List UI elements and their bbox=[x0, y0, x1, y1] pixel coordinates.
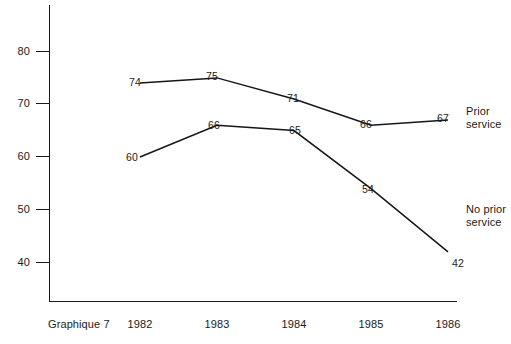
legend-label-no-prior-service-line2: service bbox=[466, 216, 502, 228]
value-label-prior-service-1984: 71 bbox=[281, 92, 305, 104]
y-axis-label-40: 40 bbox=[4, 256, 30, 268]
value-label-prior-service-1985: 66 bbox=[354, 118, 378, 130]
legend-label-prior-service: Prior service bbox=[466, 105, 511, 131]
value-label-prior-service-1986: 67 bbox=[431, 112, 455, 124]
x-axis-label-1985: 1985 bbox=[349, 318, 393, 330]
value-label-no-prior-service-1984: 65 bbox=[283, 124, 307, 136]
series-line-no-prior-service bbox=[140, 125, 448, 252]
value-label-prior-service-1982: 74 bbox=[123, 76, 147, 88]
legend-label-prior-service-line1: Prior bbox=[466, 105, 490, 117]
y-axis-label-80: 80 bbox=[4, 45, 30, 57]
x-axis-label-1984: 1984 bbox=[272, 318, 316, 330]
x-axis-label-1983: 1983 bbox=[195, 318, 239, 330]
legend-label-prior-service-line2: service bbox=[466, 118, 502, 130]
value-label-no-prior-service-1983: 66 bbox=[202, 119, 226, 131]
legend-label-no-prior-service-line1: No prior bbox=[466, 203, 506, 215]
y-axis-label-50: 50 bbox=[4, 203, 30, 215]
y-axis-label-60: 60 bbox=[4, 150, 30, 162]
value-label-prior-service-1983: 75 bbox=[200, 70, 224, 82]
y-axis-label-70: 70 bbox=[4, 97, 30, 109]
chart-caption: Graphique 7 bbox=[48, 318, 110, 330]
value-label-no-prior-service-1986: 42 bbox=[446, 257, 470, 269]
x-axis-label-1982: 1982 bbox=[118, 318, 162, 330]
chart-figure: 80 70 60 50 40 1982 1983 1984 1985 1986 … bbox=[0, 0, 511, 344]
chart-plot-area bbox=[0, 0, 511, 344]
legend-label-no-prior-service: No prior service bbox=[466, 203, 511, 229]
x-axis-label-1986: 1986 bbox=[426, 318, 470, 330]
value-label-no-prior-service-1985: 54 bbox=[356, 183, 380, 195]
value-label-no-prior-service-1982: 60 bbox=[120, 151, 144, 163]
